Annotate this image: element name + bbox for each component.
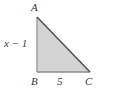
geometry-figure: A B C 5 x − 1 [0,0,113,98]
side-label-base: 5 [57,76,63,87]
vertex-label-c: C [85,76,92,87]
side-label-vertical-leg: x − 1 [4,38,27,49]
vertex-label-b: B [31,76,38,87]
vertex-label-a: A [31,2,38,13]
